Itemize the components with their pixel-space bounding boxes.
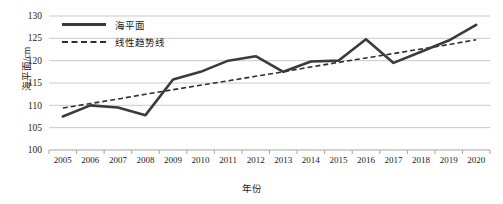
legend-item-trend-line: 线性趋势线 — [62, 33, 165, 50]
legend-dashed-line-icon — [62, 36, 106, 47]
chart-legend: 海平面 线性趋势线 — [62, 16, 165, 50]
x-axis-title: 年份 — [0, 181, 503, 195]
sea-level-line-chart: 海平面/cm 130 125 120 115 110 105 100 20052… — [0, 0, 503, 204]
x-tick-label: 2020 — [459, 155, 493, 165]
legend-solid-line-icon — [62, 19, 106, 30]
legend-item-sea-level: 海平面 — [62, 16, 165, 33]
x-axis-tick-marks — [49, 150, 490, 154]
legend-label: 海平面 — [115, 18, 145, 32]
legend-label: 线性趋势线 — [115, 35, 165, 49]
